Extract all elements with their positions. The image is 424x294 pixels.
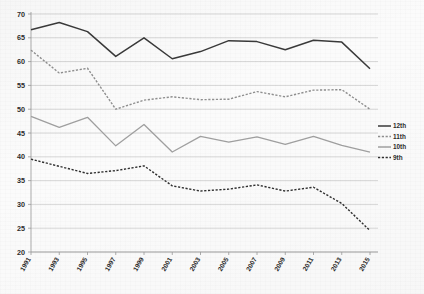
- x-axis-tick-labels: 1991199319951997199920012003200520072009…: [18, 256, 371, 272]
- y-axis-tick-labels: 2025303540455055606570: [17, 10, 25, 257]
- y-tick-label-30: 30: [17, 200, 25, 209]
- x-tick-label-2007: 2007: [244, 256, 258, 272]
- y-tick-label-65: 65: [17, 33, 25, 42]
- x-tick-label-1993: 1993: [47, 256, 61, 272]
- y-tick-label-35: 35: [17, 176, 25, 185]
- data-series: [31, 23, 370, 231]
- legend-label-12th: 12th: [393, 122, 406, 129]
- chart-legend: 12th11th10th9th: [378, 122, 406, 161]
- x-tick-label-2001: 2001: [160, 256, 174, 272]
- y-tick-label-55: 55: [17, 81, 25, 90]
- x-tick-label-2013: 2013: [329, 256, 343, 272]
- y-tick-label-20: 20: [17, 248, 25, 257]
- legend-label-11th: 11th: [393, 133, 406, 140]
- chart-plot-area: 2025303540455055606570 19911993199519971…: [0, 0, 424, 294]
- y-tick-label-45: 45: [17, 129, 25, 138]
- y-tick-label-40: 40: [17, 152, 25, 161]
- y-tick-label-70: 70: [17, 10, 25, 19]
- series-line-11th: [31, 50, 370, 109]
- y-tick-label-50: 50: [17, 105, 25, 114]
- x-tick-label-1997: 1997: [103, 256, 117, 272]
- y-tick-label-60: 60: [17, 57, 25, 66]
- legend-label-10th: 10th: [393, 143, 406, 150]
- x-tick-label-2009: 2009: [273, 256, 287, 272]
- legend-label-9th: 9th: [393, 154, 403, 161]
- x-tick-label-1995: 1995: [75, 256, 89, 272]
- x-tick-label-2015: 2015: [357, 256, 371, 272]
- chart-axes: [28, 12, 378, 255]
- x-tick-label-1999: 1999: [131, 256, 145, 272]
- y-tick-label-25: 25: [17, 224, 25, 233]
- line-chart: 2025303540455055606570 19911993199519971…: [0, 0, 424, 294]
- x-tick-label-2005: 2005: [216, 256, 230, 272]
- series-line-9th: [31, 159, 370, 230]
- x-tick-label-2003: 2003: [188, 256, 202, 272]
- x-tick-label-2011: 2011: [301, 256, 314, 272]
- x-tick-label-1991: 1991: [18, 256, 32, 272]
- series-line-10th: [31, 116, 370, 152]
